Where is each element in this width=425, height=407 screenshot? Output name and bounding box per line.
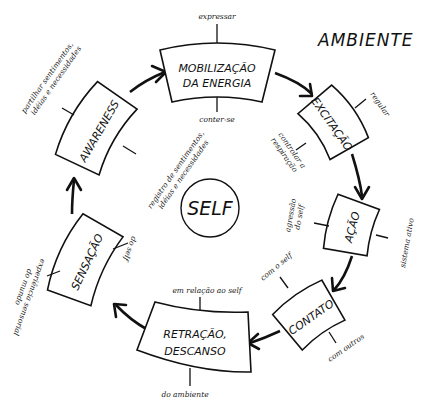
acao-inner-note: agressão do self (283, 197, 307, 234)
outer-note: expressar (198, 12, 236, 21)
sensacao-inner-note: do self (121, 235, 138, 263)
arrow-sensacao-to-awareness (72, 180, 74, 214)
gestalt-cycle-diagram: AMBIENTE MOBILIZAÇÃO DA ENERGIA expressa… (0, 0, 425, 407)
stage-sensacao: SENSAÇÃO (43, 212, 125, 310)
svg-text:partilhar sentimentos,: partilhar sentimentos, (19, 40, 75, 114)
arrow-retracao-to-sensacao (116, 305, 148, 330)
acao-tick-outer (376, 235, 388, 238)
stage-awareness: AWARENESS (51, 79, 139, 178)
self-node: SELF (181, 179, 239, 237)
awareness-tick-outer (62, 108, 74, 115)
contato-inner-note: com o self (259, 250, 295, 282)
svg-text:idéias e necessidades: idéias e necessidades (29, 44, 83, 116)
excitacao-outer-note: regular (368, 90, 392, 119)
arrow-mobilizacao-to-excitacao (275, 73, 312, 94)
outer-note: do ambiente (161, 390, 209, 399)
contato-tick-outer (280, 277, 288, 288)
sensacao-outer-note: experiência sensorial do mundo (3, 255, 48, 338)
stage-acao: AÇÃO (321, 194, 380, 260)
stage-label-line2: DESCANSO (164, 345, 226, 358)
diagram-title: AMBIENTE (317, 30, 414, 50)
arrow-acao-to-contato (334, 256, 352, 290)
inner-note: conter-se (199, 115, 235, 124)
excitacao-tick-outer (355, 99, 366, 108)
self-label: SELF (187, 197, 234, 219)
inner-note: em relação ao self (172, 286, 242, 295)
arrow-awareness-to-mobilizacao (130, 72, 165, 92)
stage-mobilizacao: MOBILIZAÇÃO DA ENERGIA expressar conter-… (160, 12, 275, 124)
stage-label-line1: RETRAÇÃO, (163, 328, 226, 341)
awareness-outer-note: partilhar sentimentos, idéias e necessid… (19, 39, 83, 120)
awareness-tick-inner (123, 146, 136, 154)
stage-retracao: RETRAÇÃO, DESCANSO em relação ao self do… (137, 286, 251, 399)
contato-tick-inner (329, 332, 336, 343)
acao-outer-note: sistema ativo (398, 217, 416, 268)
stage-label-line1: MOBILIZAÇÃO (178, 62, 256, 75)
stage-label-line2: DA ENERGIA (183, 77, 252, 90)
excitacao-inner-note: controlar a respiração (269, 131, 308, 176)
